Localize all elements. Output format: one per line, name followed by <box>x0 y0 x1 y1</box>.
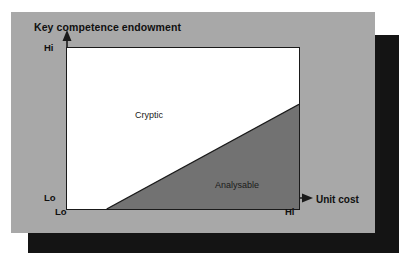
x-axis-high-label: Hi <box>285 206 295 217</box>
region-shapes <box>67 48 299 209</box>
region-label-cryptic: Cryptic <box>135 110 163 120</box>
region-label-analysable: Analysable <box>215 180 259 190</box>
figure-card: Key competence endowment Cryptic Analysa… <box>11 12 375 233</box>
x-axis-low-label: Lo <box>55 206 67 217</box>
plot-area: Cryptic Analysable <box>66 47 300 210</box>
card-shadow-right <box>375 35 399 253</box>
x-axis-arrowhead <box>302 194 313 203</box>
x-axis-title: Unit cost <box>316 194 359 205</box>
y-axis-high-label: Hi <box>44 42 54 53</box>
figure-canvas: Key competence endowment Cryptic Analysa… <box>0 0 403 265</box>
card-shadow-bottom <box>28 233 399 253</box>
chart-title: Key competence endowment <box>34 21 181 33</box>
y-axis-low-label: Lo <box>44 192 56 203</box>
